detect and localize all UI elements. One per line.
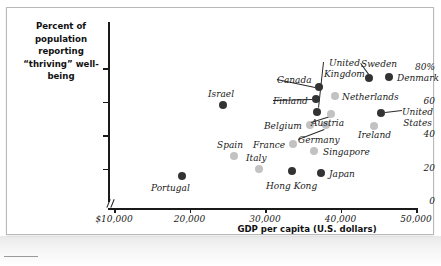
data-point[interactable] [377, 109, 385, 117]
data-point-label: Portugal [151, 183, 190, 194]
x-axis-line [108, 208, 416, 210]
data-point-label: Italy [246, 153, 267, 164]
y-tick [103, 68, 109, 70]
data-point[interactable] [255, 165, 263, 173]
data-point-label: United Kingdom [324, 58, 365, 79]
x-axis-title: GDP per capita (U.S. dollars) [187, 224, 427, 234]
x-tick [114, 208, 116, 213]
data-point[interactable] [370, 122, 378, 130]
data-point-label: France [253, 140, 285, 151]
data-point-label: Austria [311, 118, 344, 129]
data-point-label: Hong Kong [266, 181, 317, 192]
data-point-label: Spain [217, 140, 243, 151]
data-point-label: Japan [329, 169, 355, 180]
data-point[interactable] [310, 147, 318, 155]
x-tick [416, 208, 418, 213]
data-point-label: Germany [298, 135, 340, 146]
y-tick-label: 20 [343, 163, 435, 173]
data-point[interactable] [385, 73, 393, 81]
data-point-label: Netherlands [342, 92, 399, 103]
x-tick [190, 208, 192, 213]
data-point[interactable] [313, 108, 321, 116]
y-tick [103, 102, 109, 104]
x-tick-label: 50,000 [386, 214, 441, 224]
x-tick-label: 30,000 [235, 214, 295, 224]
data-point-label: United States [402, 107, 433, 128]
x-tick [265, 208, 267, 213]
y-axis-line [108, 22, 110, 202]
data-point-label: Singapore [323, 147, 370, 158]
data-point[interactable] [288, 167, 296, 175]
data-point-label: Sweden [361, 59, 397, 70]
data-point[interactable] [331, 92, 339, 100]
data-point[interactable] [327, 110, 335, 118]
x-tick-label: 20,000 [160, 214, 220, 224]
y-tick [103, 169, 109, 171]
data-point[interactable] [365, 74, 373, 82]
x-tick-label: 40,000 [311, 214, 371, 224]
data-point[interactable] [312, 95, 320, 103]
figure-panel: Percent of population reporting “thrivin… [6, 7, 434, 235]
data-point[interactable] [219, 101, 227, 109]
axis-break-marks [104, 198, 120, 212]
y-axis-title: Percent of population reporting “thrivin… [15, 20, 107, 83]
data-point[interactable] [230, 152, 238, 160]
y-tick [103, 135, 109, 137]
scatter-plot: Percent of population reporting “thrivin… [7, 8, 435, 236]
y-tick-label: 0 [343, 196, 435, 206]
label-leader-line [385, 110, 402, 113]
x-tick [341, 208, 343, 213]
data-point-label: Canada [277, 75, 312, 86]
data-point[interactable] [317, 169, 325, 177]
x-tick-label: $10,000 [84, 214, 144, 224]
data-point-label: Denmark [397, 73, 439, 84]
data-point[interactable] [289, 140, 297, 148]
data-point-label: Finland [273, 96, 308, 107]
data-point[interactable] [178, 172, 186, 180]
page-gutter [0, 236, 441, 266]
data-point-label: Israel [208, 89, 234, 100]
data-point[interactable] [315, 83, 323, 91]
data-point-label: Belgium [264, 121, 302, 132]
data-point-label: Ireland [358, 130, 391, 141]
